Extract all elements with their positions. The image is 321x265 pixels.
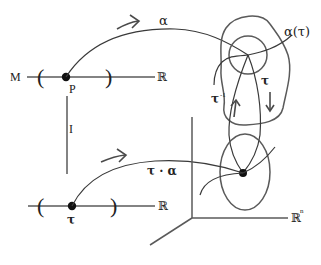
label-tau-inverse: τ — [211, 92, 219, 106]
map-i: I — [67, 96, 73, 174]
label-tau-inverse-sup: -1 — [220, 91, 226, 99]
tau-curve — [243, 55, 261, 173]
label-p: P — [69, 82, 76, 96]
tau-inverse-arrow-shaft-icon — [234, 101, 236, 117]
label-rn-sup: n — [300, 207, 304, 215]
tau-inverse-curve — [229, 55, 248, 173]
label-alpha: α — [159, 13, 168, 28]
top-label-r: ℝ — [157, 70, 168, 84]
manifold-diagram: M ( ) P ℝ I ( ) τ ℝ α α(τ) τ -1 — [0, 0, 321, 265]
rn-axes: ℝ n — [150, 117, 304, 245]
label-tau-point: τ — [67, 213, 75, 227]
top-right-paren: ) — [105, 64, 112, 89]
bottom-left-paren: ( — [37, 193, 44, 218]
top-real-line: M ( ) P ℝ — [10, 64, 168, 96]
label-i: I — [69, 122, 73, 136]
bottom-right-paren: ) — [110, 193, 117, 218]
rn-axis-diagonal — [150, 218, 192, 245]
label-m: M — [10, 70, 21, 84]
bottom-real-line: ( ) τ ℝ — [28, 193, 169, 227]
bottom-label-r: ℝ — [158, 199, 169, 213]
label-tau-alpha: τ · α — [147, 164, 177, 178]
label-tau: τ — [261, 74, 269, 88]
label-alpha-tau: α(τ) — [284, 24, 310, 39]
top-left-paren: ( — [37, 64, 44, 89]
